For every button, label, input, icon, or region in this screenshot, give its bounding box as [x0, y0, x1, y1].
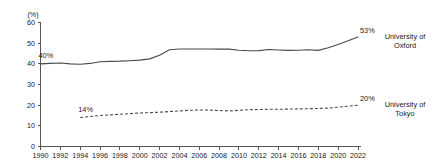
end-value-label-2: 20%	[360, 94, 375, 103]
x-tick-label: 2000	[132, 151, 148, 160]
y-tick-label: 50	[27, 39, 35, 48]
x-tick-label: 1992	[52, 151, 68, 160]
x-tick-label: 2012	[251, 151, 267, 160]
series-legend-line1-1: University of	[385, 32, 427, 41]
series-legend-line1-2: University of	[385, 100, 427, 109]
x-tick-label: 2020	[330, 151, 346, 160]
x-tick-label: 2014	[271, 151, 287, 160]
y-tick-label: 60	[27, 18, 35, 27]
data-point-annotations: 40%53%14%20%	[39, 26, 376, 114]
x-tick-label: 2022	[350, 151, 366, 160]
x-tick-label: 2008	[211, 151, 227, 160]
start-value-label-2: 14%	[78, 105, 93, 114]
axes-group	[41, 23, 362, 147]
x-tick-label: 2018	[310, 151, 326, 160]
x-tick-label: 1996	[92, 151, 108, 160]
x-tick-label: 2004	[171, 151, 187, 160]
x-tick-label: 2016	[290, 151, 306, 160]
chart-canvas: 0102030405060 19901992199419961998200020…	[0, 0, 447, 168]
end-value-label-1: 53%	[360, 26, 375, 35]
y-tick-label: 40	[27, 59, 35, 68]
tick-marks-group	[38, 23, 359, 150]
y-axis-tick-labels: 0102030405060	[27, 18, 35, 151]
x-tick-label: 1998	[112, 151, 128, 160]
y-tick-label: 0	[31, 142, 35, 151]
series-legend-line2-2: Tokyo	[395, 109, 414, 118]
x-tick-label: 2002	[152, 151, 168, 160]
y-tick-label: 10	[27, 121, 35, 130]
series-legend-line2-1: Oxford	[394, 41, 416, 50]
x-tick-label: 2010	[231, 151, 247, 160]
start-value-label-1: 40%	[39, 51, 54, 60]
x-tick-label: 1990	[33, 151, 49, 160]
x-tick-label: 2006	[191, 151, 207, 160]
series-line-1	[41, 37, 359, 64]
x-tick-label: 1994	[72, 151, 88, 160]
y-tick-label: 20	[27, 101, 35, 110]
series-line-2	[80, 105, 358, 117]
y-axis-unit-label: (%)	[27, 10, 38, 19]
series-inline-legend: University ofOxfordUniversity ofTokyo	[385, 32, 427, 118]
line-chart: 0102030405060 19901992199419961998200020…	[0, 0, 447, 168]
y-tick-label: 30	[27, 80, 35, 89]
x-axis-tick-labels: 1990199219941996199820002002200420062008…	[33, 151, 367, 160]
